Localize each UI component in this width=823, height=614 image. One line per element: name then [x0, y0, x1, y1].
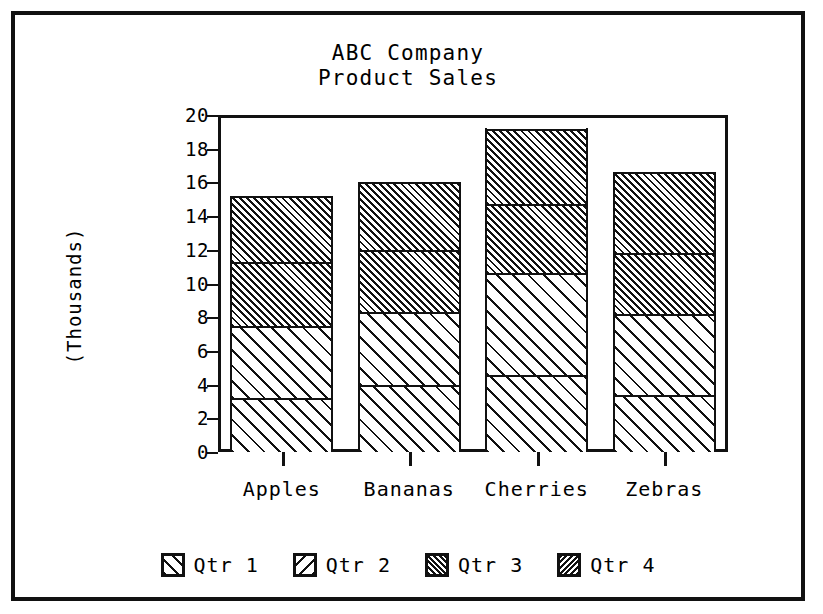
- bar-segment: [615, 172, 714, 253]
- bar-segment: [360, 250, 459, 312]
- bar-segment: [360, 312, 459, 384]
- stacked-bar: [230, 196, 333, 452]
- x-tick-mark: [537, 452, 540, 466]
- chart-title-block: ABC Company Product Sales: [15, 41, 801, 91]
- y-tick-label: 2: [197, 409, 209, 428]
- bar-segment: [615, 314, 714, 395]
- x-tick-mark: [664, 452, 667, 466]
- bar-segment: [487, 375, 586, 453]
- bar-segment: [232, 398, 331, 452]
- legend-label: Qtr 2: [326, 553, 391, 577]
- y-tick-label: 8: [197, 308, 209, 327]
- legend-label: Qtr 3: [458, 553, 523, 577]
- y-tick-label: 12: [185, 240, 209, 259]
- x-axis-label: Apples: [243, 477, 321, 501]
- bar-segment: [360, 182, 459, 249]
- legend-item: Qtr 4: [557, 553, 655, 577]
- y-axis-label: (Thousands): [63, 201, 85, 391]
- y-tick-label: 4: [197, 375, 209, 394]
- legend-item: Qtr 3: [425, 553, 523, 577]
- bar-segment: [615, 253, 714, 314]
- bar-segment: [487, 204, 586, 273]
- x-axis-label: Bananas: [364, 477, 455, 501]
- bar-segment: [615, 395, 714, 452]
- y-tick-label: 14: [185, 207, 209, 226]
- y-tick-label: 16: [185, 173, 209, 192]
- legend-swatch-icon: [557, 553, 581, 577]
- legend-label: Qtr 4: [590, 553, 655, 577]
- x-axis-label: Zebras: [625, 477, 703, 501]
- chart-subtitle: Product Sales: [15, 66, 801, 91]
- bar-segment: [232, 262, 331, 326]
- bar-segment: [232, 326, 331, 398]
- x-tick-mark: [282, 452, 285, 466]
- y-tick-label: 18: [185, 139, 209, 158]
- chart-title: ABC Company: [15, 41, 801, 66]
- legend-label: Qtr 1: [194, 553, 259, 577]
- plot-area: 02468101214161820: [218, 115, 728, 452]
- y-tick-label: 6: [197, 341, 209, 360]
- chart-legend: Qtr 1Qtr 2Qtr 3Qtr 4: [15, 553, 801, 577]
- bar-segment: [232, 196, 331, 262]
- x-axis-label: Cherries: [485, 477, 589, 501]
- chart-frame: ABC Company Product Sales (Thousands) 02…: [11, 11, 805, 601]
- y-tick-label: 0: [197, 443, 209, 462]
- y-tick-label: 20: [185, 106, 209, 125]
- legend-swatch-icon: [161, 553, 185, 577]
- bar-segment: [360, 385, 459, 452]
- legend-swatch-icon: [293, 553, 317, 577]
- stacked-bar: [485, 128, 588, 452]
- y-tick-label: 10: [185, 274, 209, 293]
- bar-segment: [487, 129, 586, 205]
- stacked-bar: [358, 182, 461, 452]
- legend-swatch-icon: [425, 553, 449, 577]
- bar-segment: [487, 273, 586, 374]
- x-tick-mark: [409, 452, 412, 466]
- legend-item: Qtr 1: [161, 553, 259, 577]
- legend-item: Qtr 2: [293, 553, 391, 577]
- stacked-bar: [613, 172, 716, 452]
